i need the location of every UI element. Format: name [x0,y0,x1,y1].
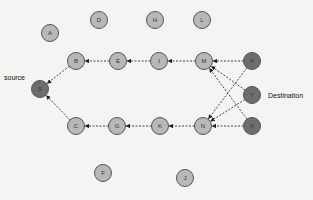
edge-layer [46,61,247,126]
node-label: M [202,58,207,64]
destination-label: Destination [268,92,303,99]
node-label: H [153,17,157,23]
node-x1: X [244,53,261,70]
node-m: M [196,53,213,70]
node-label: A [48,30,52,36]
node-l: L [194,12,211,29]
node-n: N [195,118,212,135]
edge-c-to-s [46,95,70,119]
node-i: I [151,53,168,70]
node-label: J [184,175,187,181]
node-j: J [177,170,194,187]
routing-diagram: ADHLBEIMXSYCGKNXFJ source Destination [0,0,313,200]
node-label: F [101,170,105,176]
node-label: X [250,123,254,129]
node-s: S [32,81,49,98]
edge-y-to-m [211,66,245,90]
edge-x2-to-m [209,68,247,119]
node-k: K [152,118,169,135]
edge-x1-to-n [208,68,246,119]
node-layer: ADHLBEIMXSYCGKNXFJ [32,12,261,187]
source-label: source [4,74,25,81]
node-label: D [97,17,102,23]
node-label: E [116,58,120,64]
node-label: B [74,58,78,64]
node-a: A [42,25,59,42]
node-label: Y [250,92,254,98]
node-x2: X [244,118,261,135]
node-f: F [95,165,112,182]
node-h: H [147,12,164,29]
node-g: G [109,118,126,135]
node-b: B [68,53,85,70]
node-label: K [158,123,162,129]
node-label: X [250,58,254,64]
node-e: E [110,53,127,70]
node-label: G [115,123,120,129]
node-label: N [201,123,205,129]
node-label: S [38,86,42,92]
node-label: C [74,123,79,129]
edge-y-to-n [211,100,245,122]
node-c: C [68,118,85,135]
node-d: D [91,12,108,29]
edge-b-to-s [47,66,69,83]
node-y: Y [244,87,261,104]
